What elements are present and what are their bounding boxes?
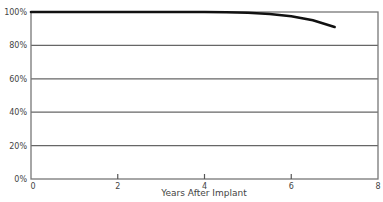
- x-tick-label: 2: [115, 182, 120, 191]
- x-tick-label: 8: [375, 182, 380, 191]
- x-tick-label: 6: [289, 182, 294, 191]
- y-axis-ticks: 0%20%40%60%80%100%: [4, 8, 27, 184]
- survival-line-chart: 0%20%40%60%80%100% 02468 Years After Imp…: [0, 0, 383, 202]
- survival-curve: [31, 12, 335, 27]
- plot-frame: [31, 12, 378, 179]
- x-tick-label: 0: [30, 182, 35, 191]
- y-tick-label: 0%: [14, 175, 27, 184]
- y-tick-label: 80%: [9, 41, 27, 50]
- gridlines: [31, 45, 378, 145]
- y-tick-label: 60%: [9, 75, 27, 84]
- x-axis-label: Years After Implant: [160, 188, 247, 198]
- y-tick-label: 20%: [9, 142, 27, 151]
- y-tick-label: 40%: [9, 108, 27, 117]
- y-tick-label: 100%: [4, 8, 27, 17]
